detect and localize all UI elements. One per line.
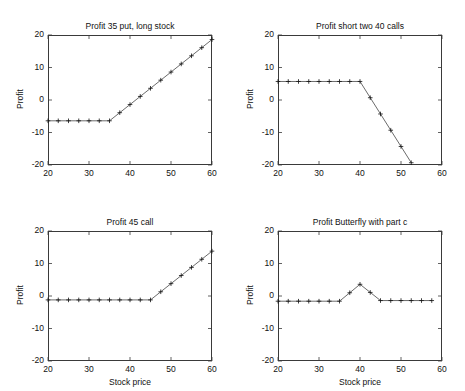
y-tick-label: -20 — [248, 159, 274, 169]
x-tick-label: 30 — [75, 168, 103, 178]
x-tick-label: 50 — [387, 364, 415, 374]
subplot-title-profit-45-call: Profit 45 call — [48, 217, 212, 227]
y-tick-label: 10 — [248, 62, 274, 72]
subplot-profit-butterfly-with-part-c: Profit Butterfly with part c-20-10010202… — [0, 0, 465, 391]
series-line-profit-35-put-long-stock — [48, 40, 212, 121]
subplot-profit-45-call: Profit 45 call-20-10010202030405060Profi… — [0, 0, 465, 391]
x-tick-label: 40 — [116, 364, 144, 374]
axes-frame-profit-butterfly-with-part-c — [278, 231, 442, 361]
y-tick-label: -10 — [18, 323, 44, 333]
plot-area-profit-45-call — [48, 231, 214, 363]
x-tick-label: 30 — [75, 364, 103, 374]
x-tick-label: 30 — [305, 364, 333, 374]
subplot-profit-35-put-long-stock: Profit 35 put, long stock-20-10010202030… — [0, 0, 465, 391]
y-axis-label: Profit — [15, 265, 25, 325]
subplot-title-profit-35-put-long-stock: Profit 35 put, long stock — [48, 21, 212, 31]
y-tick-label: -10 — [248, 323, 274, 333]
axes-frame-profit-45-call — [48, 231, 212, 361]
series-line-profit-short-two-40-calls — [278, 81, 411, 162]
subplot-title-profit-butterfly-with-part-c: Profit Butterfly with part c — [278, 217, 442, 227]
y-tick-label: 10 — [18, 62, 44, 72]
x-tick-label: 20 — [34, 364, 62, 374]
x-axis-label: Stock price — [278, 377, 442, 387]
plot-area-profit-butterfly-with-part-c — [278, 231, 444, 363]
x-tick-label: 40 — [346, 168, 374, 178]
x-tick-label: 60 — [198, 168, 226, 178]
x-tick-label: 50 — [387, 168, 415, 178]
y-axis-label: Profit — [15, 69, 25, 129]
x-tick-label: 20 — [264, 364, 292, 374]
y-tick-label: -20 — [248, 355, 274, 365]
axes-frame-profit-short-two-40-calls — [278, 35, 442, 165]
subplot-profit-short-two-40-calls: Profit short two 40 calls-20-10010202030… — [0, 0, 465, 391]
y-tick-label: 10 — [18, 258, 44, 268]
y-tick-label: -10 — [248, 127, 274, 137]
y-tick-label: 0 — [248, 94, 274, 104]
y-tick-label: 20 — [18, 225, 44, 235]
plot-area-profit-short-two-40-calls — [278, 35, 444, 167]
y-tick-label: 20 — [248, 29, 274, 39]
x-tick-label: 30 — [305, 168, 333, 178]
y-tick-label: 0 — [248, 290, 274, 300]
series-line-profit-butterfly-with-part-c — [278, 284, 432, 301]
y-tick-label: -20 — [18, 159, 44, 169]
x-tick-label: 50 — [157, 168, 185, 178]
x-tick-label: 60 — [428, 168, 456, 178]
y-tick-label: 0 — [18, 290, 44, 300]
y-tick-label: 20 — [18, 29, 44, 39]
y-tick-label: 10 — [248, 258, 274, 268]
axes-frame-profit-35-put-long-stock — [48, 35, 212, 165]
y-tick-label: 0 — [18, 94, 44, 104]
y-tick-label: -10 — [18, 127, 44, 137]
figure-canvas: Profit 35 put, long stock-20-10010202030… — [0, 0, 465, 391]
subplot-title-profit-short-two-40-calls: Profit short two 40 calls — [278, 21, 442, 31]
y-tick-label: -20 — [18, 355, 44, 365]
x-tick-label: 50 — [157, 364, 185, 374]
y-axis-label: Profit — [245, 265, 255, 325]
series-line-profit-45-call — [48, 251, 212, 300]
y-tick-label: 20 — [248, 225, 274, 235]
x-tick-label: 40 — [346, 364, 374, 374]
x-tick-label: 60 — [198, 364, 226, 374]
plot-area-profit-35-put-long-stock — [48, 35, 214, 167]
y-axis-label: Profit — [245, 69, 255, 129]
x-tick-label: 20 — [34, 168, 62, 178]
x-tick-label: 40 — [116, 168, 144, 178]
x-tick-label: 20 — [264, 168, 292, 178]
x-tick-label: 60 — [428, 364, 456, 374]
x-axis-label: Stock price — [48, 377, 212, 387]
